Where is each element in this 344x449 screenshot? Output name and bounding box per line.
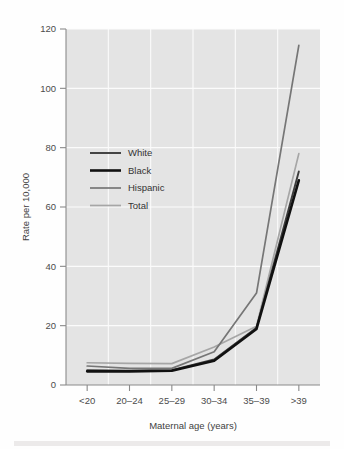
y-tick-label: 100 xyxy=(40,83,56,94)
x-tick-label: >39 xyxy=(291,395,307,406)
legend-label-hispanic: Hispanic xyxy=(128,182,165,193)
bottom-divider-strip xyxy=(14,441,330,446)
y-tick-label: 40 xyxy=(45,261,56,272)
x-tick-label: 25–29 xyxy=(159,395,185,406)
y-tick-label: 0 xyxy=(51,379,56,390)
x-tick-label: 30–34 xyxy=(201,395,227,406)
y-axis-tick-labels: 020406080100120 xyxy=(40,23,56,390)
figure-canvas: 020406080100120 <2020–2425–2930–3435–39>… xyxy=(0,0,344,449)
x-tick-label: 20–24 xyxy=(116,395,142,406)
y-tick-label: 120 xyxy=(40,23,56,34)
y-axis-title: Rate per 10,000 xyxy=(20,173,31,241)
legend-label-black: Black xyxy=(128,165,151,176)
x-axis-title: Maternal age (years) xyxy=(149,420,237,431)
line-chart: 020406080100120 <2020–2425–2930–3435–39>… xyxy=(0,0,344,449)
x-tick-label: 35–39 xyxy=(243,395,269,406)
x-tick-label: <20 xyxy=(79,395,95,406)
x-axis-tick-labels: <2020–2425–2930–3435–39>39 xyxy=(79,395,307,406)
x-axis-ticks xyxy=(87,385,299,391)
legend-label-total: Total xyxy=(128,200,148,211)
legend-label-white: White xyxy=(128,147,152,158)
y-axis-ticks xyxy=(60,29,66,385)
y-tick-label: 60 xyxy=(45,201,56,212)
y-tick-label: 80 xyxy=(45,142,56,153)
y-tick-label: 20 xyxy=(45,320,56,331)
